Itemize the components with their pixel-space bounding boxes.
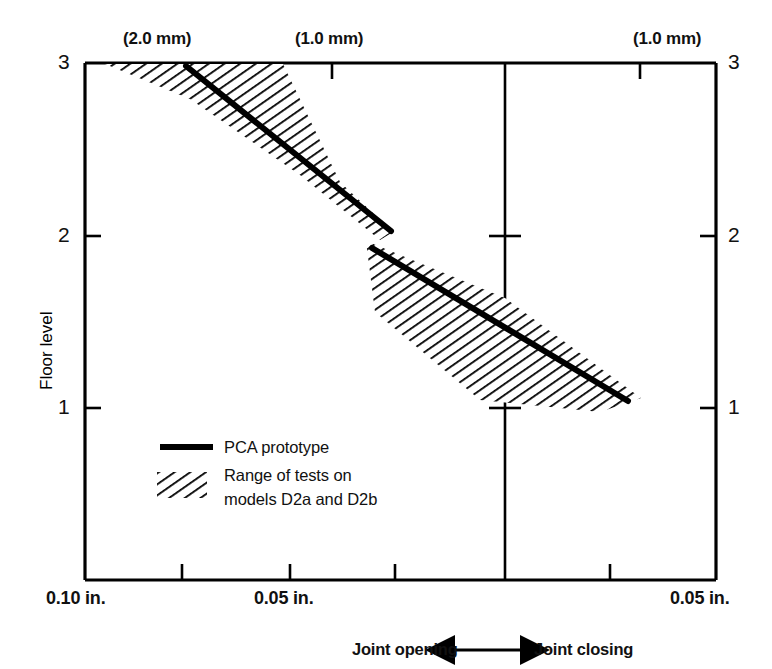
top-label-1mm-left: (1.0 mm) (295, 29, 363, 49)
top-label-1mm-right: (1.0 mm) (633, 29, 701, 49)
legend-hatch-swatch (157, 472, 207, 498)
range-band-upper-segment (105, 64, 393, 240)
chart-figure: (2.0 mm) (1.0 mm) (1.0 mm) 3 2 1 3 2 1 F… (0, 0, 772, 669)
bottom-label-010in: 0.10 in. (46, 588, 105, 609)
bottom-axis-ticks (182, 564, 610, 580)
right-axis-ticks (700, 236, 716, 408)
y-tick-label-3-left: 3 (58, 50, 69, 74)
y-tick-label-2-left: 2 (58, 223, 69, 247)
legend-label-range-line1: Range of tests on (224, 466, 352, 485)
y-tick-label-3-right: 3 (728, 50, 739, 74)
chart-canvas (0, 0, 772, 669)
y-axis-title: Floor level (37, 312, 57, 390)
x-axis-direction-right: Joint closing (534, 640, 633, 659)
y-tick-label-1-right: 1 (728, 395, 739, 419)
left-axis-ticks (85, 236, 101, 408)
x-axis-direction-left: Joint opening (352, 640, 458, 659)
top-label-2mm: (2.0 mm) (123, 29, 191, 49)
bottom-label-005in-right: 0.05 in. (670, 588, 729, 609)
bottom-label-005in-left: 0.05 in. (254, 588, 313, 609)
y-tick-label-2-right: 2 (728, 223, 739, 247)
legend-label-range-line2: models D2a and D2b (224, 490, 377, 509)
legend-label-pca-prototype: PCA prototype (224, 438, 329, 457)
y-tick-label-1-left: 1 (58, 395, 69, 419)
